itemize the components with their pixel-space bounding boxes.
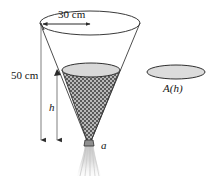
liquid-surface-ellipse [62,63,120,77]
height-dimension-arrow [41,23,44,140]
conical-funnel-figure: 30 cm 50 cm h a A(h) [0,0,214,177]
depth-dimension-arrow [54,69,61,140]
funnel-diagram-svg [0,0,214,177]
draining-stream [77,144,101,176]
orifice-outlet [84,140,94,146]
cross-section-disk [147,65,205,79]
